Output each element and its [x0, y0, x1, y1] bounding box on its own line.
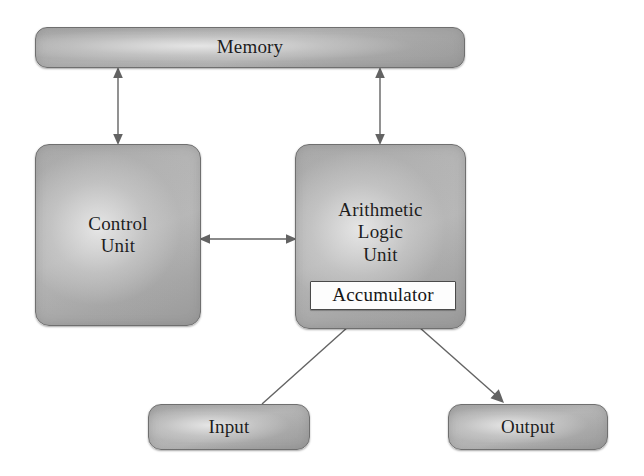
- node-memory[interactable]: Memory: [35, 27, 465, 68]
- node-control-unit-label-line1: Control: [88, 213, 147, 234]
- node-arithmetic-logic-unit-label: Arithmetic Logic Unit: [338, 199, 422, 266]
- node-input[interactable]: Input: [148, 404, 310, 450]
- node-accumulator[interactable]: Accumulator: [310, 281, 456, 310]
- node-alu-label-line1: Arithmetic: [338, 199, 422, 220]
- node-control-unit[interactable]: Control Unit: [35, 144, 201, 326]
- edge-control-unit-alu: [199, 234, 297, 244]
- node-control-unit-label: Control Unit: [88, 213, 147, 258]
- node-alu-label-line2: Logic: [358, 221, 403, 242]
- node-alu-label-line3: Unit: [363, 244, 398, 265]
- node-output[interactable]: Output: [448, 404, 608, 450]
- von-neumann-architecture-diagram: Memory Control Unit Arithmetic Logic Uni…: [0, 0, 644, 476]
- edge-memory-alu: [375, 67, 385, 145]
- node-output-label: Output: [501, 416, 555, 438]
- node-control-unit-label-line2: Unit: [101, 235, 136, 256]
- edge-memory-control-unit: [113, 67, 123, 145]
- node-memory-label: Memory: [217, 36, 284, 58]
- node-input-label: Input: [208, 416, 249, 438]
- node-accumulator-label: Accumulator: [332, 284, 433, 306]
